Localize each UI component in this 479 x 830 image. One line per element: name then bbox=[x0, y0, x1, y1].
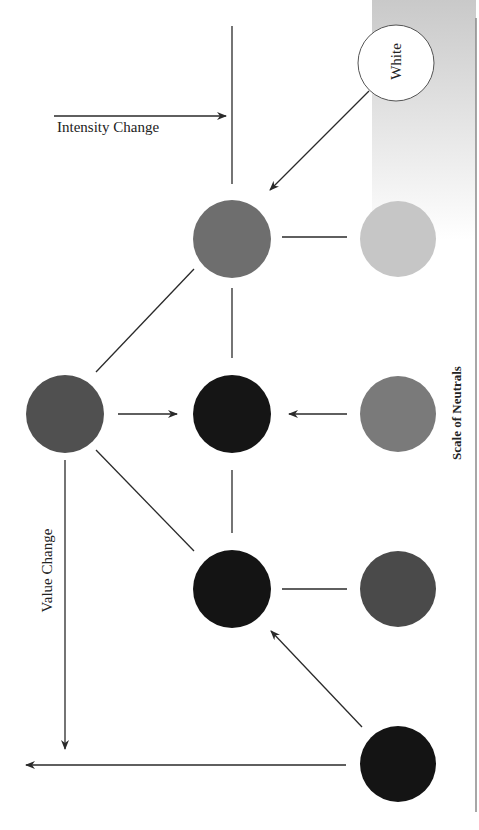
connector bbox=[96, 450, 194, 551]
circle-hue-top bbox=[193, 200, 271, 278]
color-value-intensity-diagram: Intensity Change Value Change White Scal… bbox=[0, 0, 479, 830]
arrow-black-to-lower bbox=[271, 631, 362, 727]
circle-hue-center bbox=[193, 375, 271, 453]
connector bbox=[96, 269, 194, 372]
circle-hue-full bbox=[26, 375, 104, 453]
scale-of-neutrals-label: Scale of Neutrals bbox=[449, 358, 465, 468]
circle-neutral-light bbox=[360, 201, 436, 277]
white-to-hue-arrow bbox=[270, 91, 369, 190]
value-change-label: Value Change bbox=[39, 526, 56, 616]
white-label: White bbox=[388, 42, 405, 82]
circle-neutral-black bbox=[360, 726, 436, 802]
circle-neutral-mid bbox=[360, 376, 436, 452]
circle-hue-lower bbox=[193, 550, 271, 628]
circle-neutral-dark bbox=[360, 551, 436, 627]
intensity-change-label: Intensity Change bbox=[57, 119, 159, 136]
